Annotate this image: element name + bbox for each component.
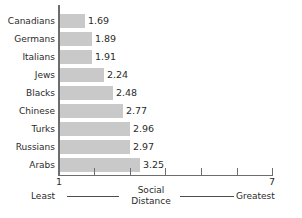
caption-rule-right xyxy=(180,196,234,197)
x-axis-title-line-1: Social xyxy=(118,185,184,196)
bar xyxy=(60,104,123,118)
bar-value-label: 2.77 xyxy=(126,106,147,116)
bar-value-label: 2.97 xyxy=(133,142,154,152)
x-axis-anchor-greatest-label: Greatest xyxy=(236,192,275,201)
x-axis-title-line-2: Distance xyxy=(118,196,184,207)
category-label: Turks xyxy=(0,121,55,137)
category-label: Jews xyxy=(0,67,55,83)
bar-row: 1.69 xyxy=(60,13,280,29)
bar-value-label: 2.96 xyxy=(133,124,154,134)
x-axis-tick xyxy=(272,168,273,176)
social-distance-bar-chart: CanadiansGermansItaliansJewsBlacksChines… xyxy=(0,0,302,218)
bar-row: 2.96 xyxy=(60,121,280,137)
bar xyxy=(60,68,104,82)
category-label: Arabs xyxy=(0,157,55,173)
category-label: Italians xyxy=(0,49,55,65)
x-axis-tick xyxy=(165,168,166,176)
bar xyxy=(60,122,130,136)
x-axis-tick xyxy=(237,168,238,176)
x-axis-caption-strip: Least Social Distance Greatest xyxy=(0,188,302,216)
x-axis-tick xyxy=(58,168,59,176)
category-label: Germans xyxy=(0,31,55,47)
bar-row: 1.89 xyxy=(60,31,280,47)
bar-value-label: 2.24 xyxy=(107,70,128,80)
x-axis-tick xyxy=(94,168,95,176)
bar-value-label: 1.91 xyxy=(95,52,116,62)
bar-row: 2.77 xyxy=(60,103,280,119)
bar-row: 1.91 xyxy=(60,49,280,65)
category-axis-labels: CanadiansGermansItaliansJewsBlacksChines… xyxy=(0,13,55,173)
bar xyxy=(60,86,113,100)
x-axis-title: Social Distance xyxy=(118,185,184,207)
bar-value-label: 1.69 xyxy=(88,16,109,26)
x-axis-endpoint-low-number: 1 xyxy=(56,177,62,187)
bar xyxy=(60,14,85,28)
category-label: Blacks xyxy=(0,85,55,101)
bar xyxy=(60,140,130,154)
bar-series: 1.691.891.912.242.482.772.962.973.25 xyxy=(60,13,280,173)
bar xyxy=(60,50,92,64)
caption-rule-left xyxy=(67,196,119,197)
x-axis-ticks xyxy=(58,168,276,176)
bar-value-label: 2.48 xyxy=(116,88,137,98)
bar-row: 2.48 xyxy=(60,85,280,101)
x-axis-tick xyxy=(201,168,202,176)
bar xyxy=(60,32,92,46)
x-axis-tick xyxy=(130,168,131,176)
category-label: Canadians xyxy=(0,13,55,29)
bar-row: 2.97 xyxy=(60,139,280,155)
category-label: Russians xyxy=(0,139,55,155)
bar-row: 2.24 xyxy=(60,67,280,83)
category-label: Chinese xyxy=(0,103,55,119)
x-axis-endpoint-high-number: 7 xyxy=(269,177,275,187)
x-axis-anchor-least-label: Least xyxy=(31,192,55,201)
bar-value-label: 1.89 xyxy=(95,34,116,44)
